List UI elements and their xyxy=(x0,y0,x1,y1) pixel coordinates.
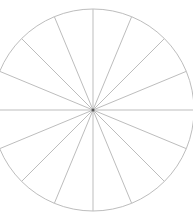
polar-wheel-diagram xyxy=(0,0,193,215)
spoke-line xyxy=(22,39,93,110)
spokes-group xyxy=(0,9,193,211)
spoke-line xyxy=(22,110,93,181)
spoke-line xyxy=(93,39,164,110)
center-point xyxy=(92,109,95,112)
spoke-line xyxy=(93,110,164,181)
